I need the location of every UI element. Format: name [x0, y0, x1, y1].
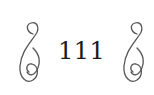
page-number: 111 [58, 37, 104, 65]
swirl-ornament-left-icon [13, 20, 45, 86]
swirl-ornament-right-icon [117, 20, 149, 86]
